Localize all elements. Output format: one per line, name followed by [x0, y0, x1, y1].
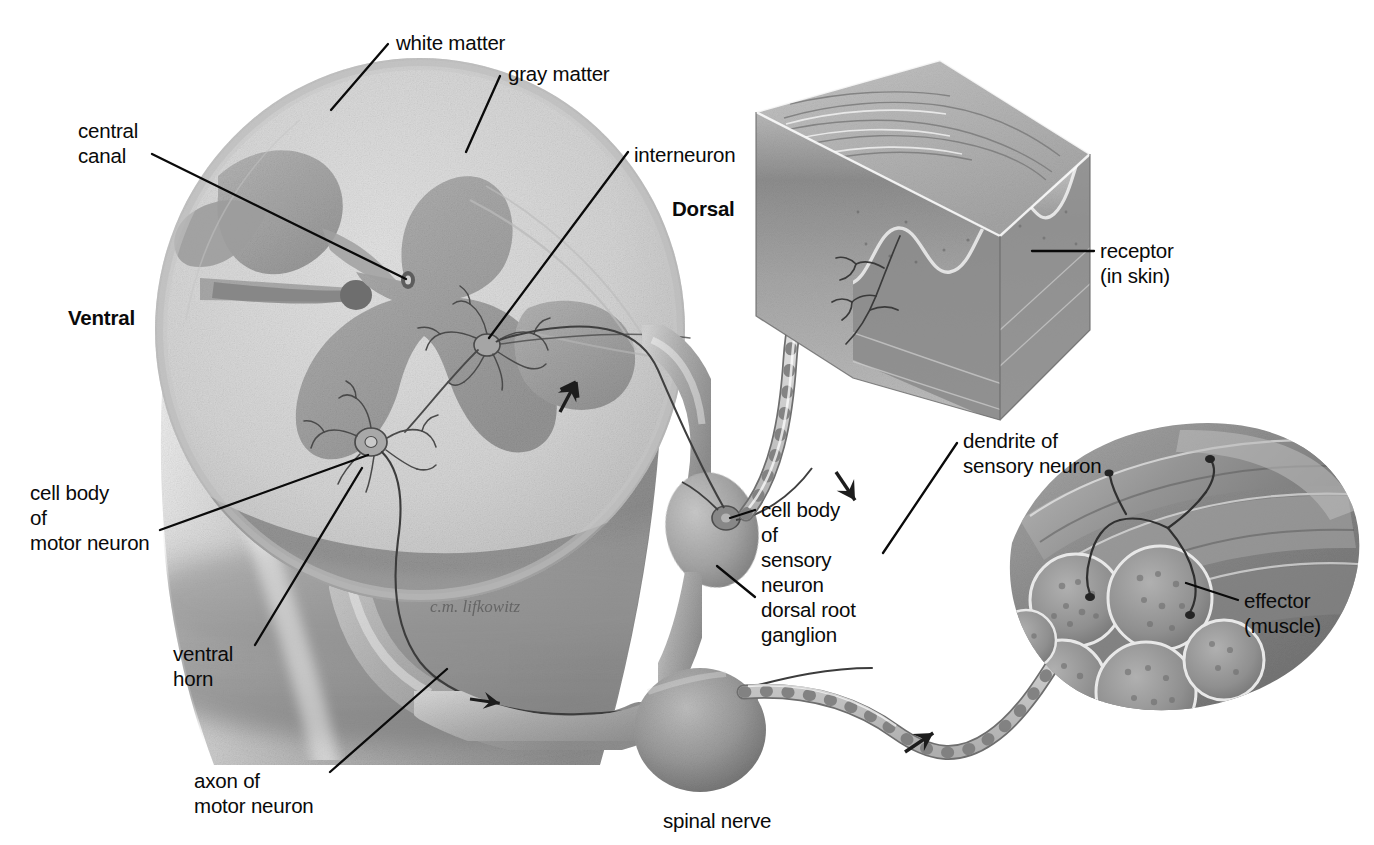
central-canal-marker [401, 271, 415, 289]
figure-canvas: c.m. lifkowitz white mattergray matterce… [0, 0, 1374, 845]
orientation-label-ventral: Ventral [68, 305, 135, 330]
effector-muscle: effector (muscle) [1244, 588, 1321, 638]
anatomy-illustration: c.m. lifkowitz [0, 0, 1374, 845]
dendrite-sensory-neuron: dendrite of sensory neuron [963, 428, 1102, 478]
orientation-label-dorsal: Dorsal [672, 196, 735, 221]
cell-body-sensory-neuron: cell body of sensory neuron [761, 497, 840, 597]
central-canal: central canal [78, 118, 138, 168]
receptor-in-skin: receptor (in skin) [1100, 238, 1174, 288]
white-matter: white matter [396, 30, 505, 55]
leader-dendrite-sensory [883, 443, 957, 553]
cell-body-motor-neuron: cell body of motor neuron [30, 480, 150, 555]
interneuron: interneuron [634, 142, 736, 167]
axon-of-motor-neuron: axon of motor neuron [194, 768, 314, 818]
skin-block [756, 60, 1092, 424]
artist-signature: c.m. lifkowitz [430, 597, 521, 616]
artist-signature-text: c.m. lifkowitz [430, 597, 521, 616]
ventral-horn: ventral horn [173, 641, 233, 691]
gray-matter: gray matter [508, 61, 609, 86]
spinal-nerve: spinal nerve [663, 808, 771, 833]
dorsal-root-ganglion: dorsal root ganglion [761, 597, 856, 647]
